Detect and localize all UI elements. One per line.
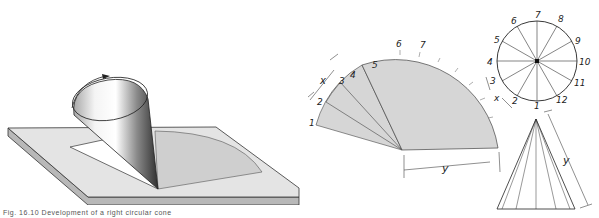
svg-text:3: 3 [490,76,496,86]
cone-front-view: y [480,100,599,218]
arc-label: 1 [309,118,315,128]
svg-text:11: 11 [574,78,585,88]
cone-pictorial-illustration [0,0,300,205]
svg-text:5: 5 [494,35,500,45]
svg-text:7: 7 [535,10,541,20]
arc-label: 3 [339,76,345,86]
cone-top-view-circle: 7 8 9 10 11 12 1 2 3 4 5 6 x [480,0,599,110]
cone-development-pattern: 1 2 3 4 5 6 7 x y [300,20,505,180]
figure-caption: Fig. 16.10 Development of a right circul… [3,209,172,216]
svg-text:4: 4 [487,57,493,67]
svg-text:9: 9 [575,36,581,46]
arc-label: 7 [420,40,426,50]
dimension-x-label: x [319,75,326,86]
dimension-y-label: y [441,162,449,175]
arc-label: 6 [396,39,402,49]
svg-text:8: 8 [558,14,564,24]
arc-label: 2 [317,97,323,107]
svg-text:10: 10 [579,57,591,67]
dimension-y-label: y [562,154,570,167]
arc-label: 5 [372,60,378,70]
svg-text:6: 6 [511,16,517,26]
arc-label: 4 [350,70,356,80]
